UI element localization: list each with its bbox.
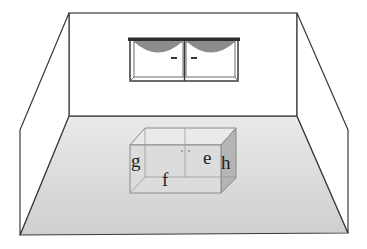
cabinet-top-bar xyxy=(128,38,240,42)
label-g: g xyxy=(131,150,141,171)
label-f: f xyxy=(162,169,169,190)
wall-cabinet xyxy=(128,38,240,82)
room-diagram: g f e h xyxy=(0,0,367,249)
cabinet-handle-right xyxy=(191,57,197,59)
box-top-face xyxy=(130,128,236,145)
label-e: e xyxy=(203,147,211,168)
cabinet-handle-left xyxy=(171,57,177,59)
label-h: h xyxy=(221,152,231,173)
